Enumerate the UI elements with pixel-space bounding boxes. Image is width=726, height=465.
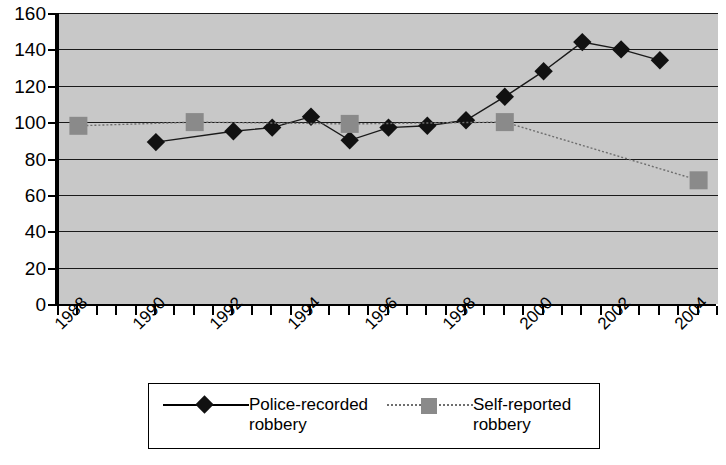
x-axis-tick bbox=[425, 306, 427, 315]
plot-area bbox=[57, 13, 718, 304]
data-point-diamond bbox=[379, 118, 397, 136]
y-axis-tick-label: 160 bbox=[0, 4, 46, 23]
x-axis-tick bbox=[328, 306, 330, 315]
y-axis-tick-label: 20 bbox=[0, 259, 46, 278]
x-axis-tick bbox=[638, 306, 640, 315]
x-axis-tick bbox=[503, 306, 505, 315]
x-axis-tick bbox=[115, 306, 117, 315]
x-axis-tick bbox=[716, 306, 718, 315]
legend-label: Police-recorded robbery bbox=[249, 395, 368, 435]
legend: Police-recorded robbery Self-reported ro… bbox=[148, 383, 600, 449]
data-point-square bbox=[690, 171, 708, 189]
data-point-square bbox=[69, 117, 87, 135]
x-axis-tick bbox=[658, 306, 660, 315]
legend-entry-police-recorded: Police-recorded robbery bbox=[163, 395, 368, 435]
y-axis-tick-label: 80 bbox=[0, 150, 46, 169]
square-marker-icon bbox=[387, 395, 473, 415]
legend-entry-self-reported: Self-reported robbery bbox=[387, 395, 571, 435]
x-axis-tick bbox=[580, 306, 582, 315]
y-axis-tick-label: 120 bbox=[0, 77, 46, 96]
x-axis-tick bbox=[561, 306, 563, 315]
data-point-diamond bbox=[263, 118, 281, 136]
data-point-diamond bbox=[147, 133, 165, 151]
x-axis-tick bbox=[483, 306, 485, 315]
data-point-diamond bbox=[341, 131, 359, 149]
data-point-diamond bbox=[651, 51, 669, 69]
x-axis-tick bbox=[348, 306, 350, 315]
data-point-diamond bbox=[457, 111, 475, 129]
data-point-diamond bbox=[496, 88, 514, 106]
y-axis-tick-label: 40 bbox=[0, 222, 46, 241]
data-point-diamond bbox=[418, 117, 436, 135]
y-axis-tick-label: 0 bbox=[0, 295, 46, 314]
y-axis-tick-label: 100 bbox=[0, 113, 46, 132]
robbery-trend-chart: 160140120100806040200 198819901992199419… bbox=[0, 0, 726, 465]
x-axis-tick bbox=[193, 306, 195, 315]
legend-label: Self-reported robbery bbox=[473, 395, 571, 435]
x-axis-tick bbox=[96, 306, 98, 315]
data-point-square bbox=[496, 113, 514, 131]
x-axis-tick bbox=[270, 306, 272, 315]
y-axis-tick-label: 60 bbox=[0, 186, 46, 205]
data-point-diamond bbox=[573, 33, 591, 51]
series-layer bbox=[59, 13, 718, 304]
x-axis-tick bbox=[251, 306, 253, 315]
data-point-diamond bbox=[224, 122, 242, 140]
data-point-square bbox=[186, 113, 204, 131]
data-point-square bbox=[341, 115, 359, 133]
y-axis-line bbox=[55, 13, 57, 306]
diamond-marker-icon bbox=[163, 395, 249, 415]
data-point-diamond bbox=[612, 40, 630, 58]
y-axis-tick-label: 140 bbox=[0, 40, 46, 59]
x-axis-tick bbox=[406, 306, 408, 315]
x-axis-tick bbox=[173, 306, 175, 315]
data-point-diamond bbox=[534, 62, 552, 80]
